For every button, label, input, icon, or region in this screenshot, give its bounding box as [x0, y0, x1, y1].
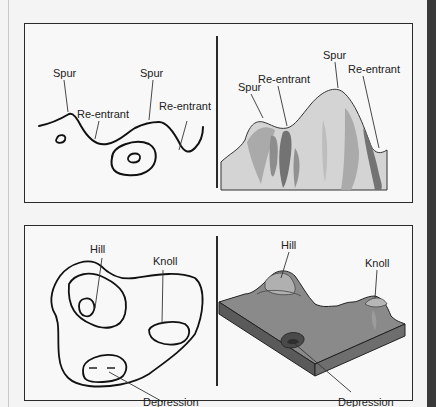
spur-reentrant-relief-illustration: Spur Re-entrant Spur Re-entrant [25, 24, 414, 204]
page-right-edge-bar [427, 0, 436, 407]
hill-knoll-depression-relief-block: Hill Knoll Depression [25, 226, 414, 402]
relief-label-reentrant-2: Re-entrant [348, 63, 400, 75]
relief-label-spur-2: Spur [323, 49, 347, 61]
relief-top-surface [219, 271, 405, 364]
relief-leader-spur-2 [335, 62, 338, 88]
relief-leader-spur-1 [251, 94, 263, 118]
relief-leader-knoll [375, 270, 377, 298]
relief-leader-reentrant-1 [278, 86, 287, 126]
relief-label-hill: Hill [281, 239, 296, 251]
relief-label-knoll: Knoll [365, 257, 389, 269]
page-left-rule [8, 0, 9, 407]
relief-label-reentrant-1: Re-entrant [258, 73, 310, 85]
terrain-silhouette [221, 89, 387, 190]
hill-knoll-depression-panel: Hill Knoll Depression Hill Knoll Depress… [24, 225, 413, 401]
spur-reentrant-panel: Spur Re-entrant Spur Re-entrant Spur Re-… [24, 23, 413, 203]
relief-label-depression: Depression [338, 396, 394, 407]
